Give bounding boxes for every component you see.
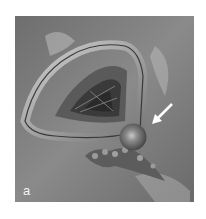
panel-label: a (23, 184, 30, 198)
arrow-icon (15, 16, 194, 202)
endoscopy-figure: a (15, 16, 194, 202)
